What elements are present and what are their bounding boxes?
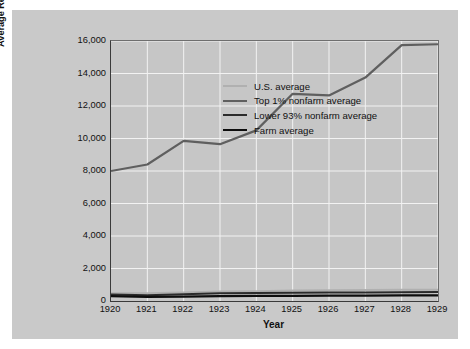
legend-item-label: U.S. average [254,81,310,92]
y-axis-tick-label: 6,000 [62,198,106,208]
chart-container: Average Real per Capita Disposable Incom… [12,10,458,339]
y-axis-tick-label: 14,000 [62,68,106,78]
chart-legend: U.S. averageTop 1% nonfarm averageLower … [223,79,433,137]
x-axis-tick-label: 1925 [272,304,312,314]
legend-line-swatch [223,85,247,87]
legend-item-label: Top 1% nonfarm average [254,95,361,106]
y-axis-title-line-1: Average Real per Capita Disposable Incom… [0,0,8,62]
y-axis-tick-label: 16,000 [62,35,106,45]
x-axis-tick-label: 1921 [126,304,166,314]
x-axis-tick-label: 1928 [381,304,421,314]
y-axis-title-line-2: (1929 dollars) [8,0,20,62]
x-axis-tick-label: 1920 [90,304,130,314]
x-axis-tick-labels: 1920192119221923192419251926192719281929 [110,304,437,318]
y-axis-tick-labels: 02,0004,0006,0008,00010,00012,00014,0001… [60,40,106,300]
legend-item: Top 1% nonfarm average [223,94,433,109]
x-axis-tick-label: 1926 [308,304,348,314]
x-axis-tick-label: 1922 [163,304,203,314]
x-axis-tick-label: 1927 [344,304,384,314]
plot-area: U.S. averageTop 1% nonfarm averageLower … [110,40,439,302]
x-axis-tick-label: 1923 [199,304,239,314]
y-axis-tick-label: 10,000 [62,133,106,143]
x-axis-title: Year [110,319,437,330]
figure-panel: Average Real per Capita Disposable Incom… [12,10,458,339]
y-axis-tick-label: 4,000 [62,230,106,240]
legend-line-swatch [223,114,247,116]
y-axis-tick-label: 12,000 [62,100,106,110]
legend-item: Farm average [223,123,433,138]
x-axis-tick-label: 1924 [235,304,275,314]
y-axis-tick-label: 8,000 [62,165,106,175]
y-axis-title: Average Real per Capita Disposable Incom… [0,0,22,62]
legend-line-swatch [223,129,247,131]
legend-item-label: Lower 93% nonfarm average [254,110,377,121]
legend-item-label: Farm average [254,125,314,136]
legend-item: U.S. average [223,79,433,94]
y-axis-tick-label: 2,000 [62,263,106,273]
legend-item: Lower 93% nonfarm average [223,108,433,123]
legend-line-swatch [223,100,247,102]
x-axis-tick-label: 1929 [417,304,457,314]
